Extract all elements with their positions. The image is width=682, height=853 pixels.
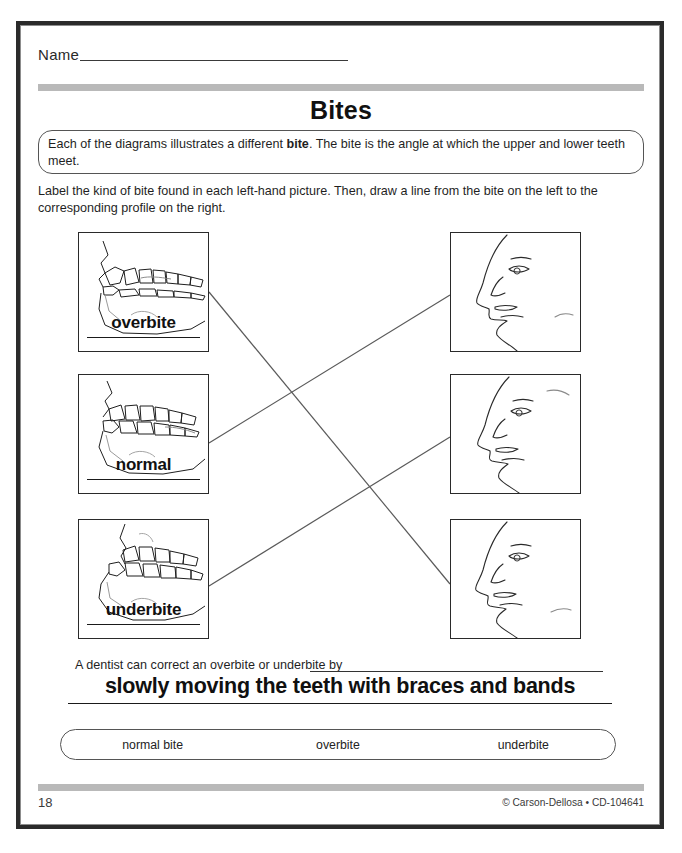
- jaw-underbite-icon: [79, 520, 209, 639]
- face-profile-icon: [451, 233, 581, 352]
- bite-answer-rule-2: [87, 479, 200, 480]
- bite-diagram-box-1[interactable]: overbite: [78, 232, 209, 352]
- written-answer[interactable]: slowly moving the teeth with braces and …: [70, 674, 610, 699]
- word-bank-option-2[interactable]: overbite: [245, 738, 430, 752]
- bite-diagram-box-2[interactable]: normal: [78, 374, 209, 494]
- written-answer-rule: [68, 703, 612, 704]
- profile-box-2[interactable]: [450, 374, 581, 494]
- jaw-overbite-icon: [79, 233, 209, 352]
- match-line-underbite: [209, 437, 450, 586]
- fill-in-sentence: A dentist can correct an overbite or und…: [75, 658, 342, 672]
- bite-answer-2[interactable]: normal: [87, 455, 200, 475]
- bite-answer-rule-1: [87, 337, 200, 338]
- match-line-normal: [209, 295, 450, 443]
- profile-box-3[interactable]: [450, 519, 581, 639]
- copyright-credit: © Carson-Dellosa • CD-104641: [502, 797, 644, 808]
- bite-answer-3[interactable]: underbite: [87, 600, 200, 620]
- page-number: 18: [38, 795, 52, 810]
- jaw-normal-icon: [79, 375, 209, 494]
- match-line-overbite: [209, 292, 450, 584]
- word-bank-option-3[interactable]: underbite: [431, 738, 616, 752]
- fill-in-sentence-rule[interactable]: [310, 671, 603, 672]
- profile-box-1[interactable]: [450, 232, 581, 352]
- bite-diagram-box-3[interactable]: underbite: [78, 519, 209, 639]
- word-bank-items: normal bite overbite underbite: [60, 729, 616, 760]
- face-profile-icon: [451, 520, 581, 639]
- bite-answer-rule-3: [87, 624, 200, 625]
- word-bank-option-1[interactable]: normal bite: [60, 738, 245, 752]
- face-profile-icon: [451, 375, 581, 494]
- bite-answer-1[interactable]: overbite: [87, 313, 200, 333]
- worksheet-page: Name Bites Each of the diagrams illustra…: [0, 0, 682, 853]
- footer-divider-bar: [38, 784, 644, 791]
